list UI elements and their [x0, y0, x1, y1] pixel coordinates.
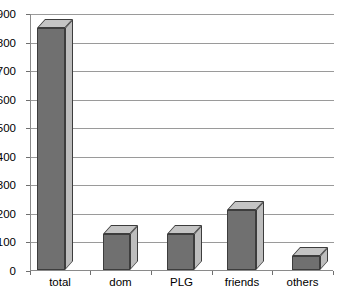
- x-axis-tick-mark: [30, 271, 31, 275]
- y-axis-tick-label: 400: [0, 152, 16, 164]
- bar-side-face: [194, 226, 202, 270]
- bar-total[interactable]: [37, 20, 73, 270]
- bar-side-face: [256, 201, 264, 270]
- gridline: [31, 43, 334, 44]
- x-axis-label-others: others: [272, 276, 333, 289]
- gridline: [31, 185, 334, 186]
- bar-plg[interactable]: [167, 226, 202, 270]
- x-axis-tick-mark: [272, 271, 273, 275]
- x-axis-tick-mark: [90, 271, 91, 275]
- y-axis-tick-label: 300: [0, 180, 16, 192]
- y-axis-tick-label: 900: [0, 9, 16, 21]
- x-axis-tick-mark: [151, 271, 152, 275]
- gridline: [31, 14, 334, 15]
- y-axis-tick-label: 200: [0, 209, 16, 221]
- plot-area: [30, 14, 333, 271]
- bar-chart: 900 800 700 600 500 400 300 200 100 0: [0, 0, 350, 297]
- gridline: [31, 128, 334, 129]
- bar-others[interactable]: [292, 248, 328, 270]
- bar-dom[interactable]: [103, 226, 138, 270]
- y-axis-tick-label: 700: [0, 66, 16, 78]
- x-axis-tick-mark: [333, 271, 334, 275]
- gridline: [31, 157, 334, 158]
- bar-front-face: [103, 234, 130, 270]
- bar-front-face: [37, 28, 65, 270]
- x-axis-label-dom: dom: [90, 276, 151, 289]
- y-axis-tick-label: 800: [0, 38, 16, 50]
- bar-side-face: [130, 226, 138, 270]
- x-axis-tick-mark: [212, 271, 213, 275]
- bar-front-face: [227, 210, 256, 270]
- bar-friends[interactable]: [227, 202, 264, 270]
- bar-front-face: [292, 256, 320, 270]
- bar-front-face: [167, 234, 194, 270]
- gridline: [31, 100, 334, 101]
- bar-side-face: [65, 19, 73, 270]
- y-axis-tick-label: 500: [0, 123, 16, 135]
- y-axis-tick-label: 600: [0, 95, 16, 107]
- x-axis-label-friends: friends: [212, 276, 272, 289]
- gridline: [31, 214, 334, 215]
- x-axis-label-plg: PLG: [151, 276, 212, 289]
- y-axis-tick-label: 0: [0, 266, 16, 278]
- y-axis-tick-label: 100: [0, 237, 16, 249]
- x-axis-label-total: total: [30, 276, 90, 289]
- gridline: [31, 71, 334, 72]
